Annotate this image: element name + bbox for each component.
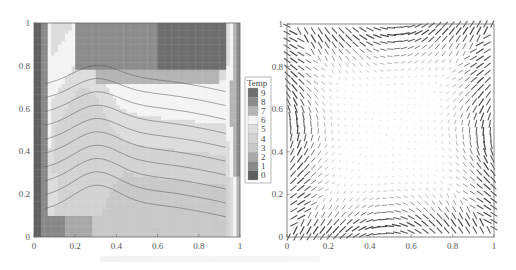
velocity-vector — [337, 104, 339, 106]
velocity-vector — [440, 188, 442, 191]
contour-cell — [185, 198, 189, 202]
velocity-vector — [359, 162, 360, 164]
contour-cell — [144, 230, 148, 234]
contour-cell — [123, 176, 127, 180]
velocity-vector — [359, 63, 362, 66]
contour-cell — [75, 98, 79, 102]
contour-cell — [199, 80, 203, 84]
contour-cell — [199, 219, 203, 223]
contour-cell — [127, 105, 131, 109]
contour-cell — [37, 69, 41, 73]
contour-cell — [41, 77, 45, 81]
contour-cell — [48, 34, 52, 38]
contour-cell — [195, 66, 199, 70]
velocity-vector — [332, 28, 337, 34]
contour-cell — [185, 184, 189, 188]
contour-cell — [134, 119, 138, 123]
velocity-vector — [299, 79, 305, 84]
contour-cell — [106, 98, 110, 102]
contour-cell — [192, 94, 196, 98]
contour-cell — [233, 216, 237, 220]
contour-cell — [127, 176, 131, 180]
velocity-vector — [406, 168, 407, 169]
contour-cell — [106, 55, 110, 59]
velocity-vector — [379, 219, 387, 220]
velocity-vector — [485, 77, 491, 83]
velocity-vector — [470, 141, 472, 147]
velocity-vector — [351, 184, 353, 186]
contour-cell — [34, 119, 38, 123]
contour-cell — [154, 191, 158, 195]
velocity-vector — [407, 230, 414, 233]
velocity-vector — [336, 83, 339, 84]
contour-cell — [99, 48, 103, 52]
contour-cell — [230, 216, 234, 220]
contour-cell — [223, 184, 227, 188]
contour-cell — [116, 219, 120, 223]
contour-cell — [92, 187, 96, 191]
contour-cell — [168, 23, 172, 27]
contour-cell — [82, 52, 86, 56]
contour-cell — [161, 69, 165, 73]
contour-cell — [147, 30, 151, 34]
contour-cell — [151, 180, 155, 184]
contour-cell — [182, 191, 186, 195]
contour-cell — [216, 126, 220, 130]
contour-cell — [182, 198, 186, 202]
contour-cell — [113, 87, 117, 91]
contour-cell — [185, 176, 189, 180]
contour-cell — [113, 151, 117, 155]
velocity-vector — [428, 67, 430, 70]
contour-cell — [120, 219, 124, 223]
velocity-vector — [297, 45, 304, 49]
contour-cell — [58, 116, 62, 120]
contour-cell — [199, 34, 203, 38]
contour-cell — [192, 91, 196, 95]
contour-cell — [130, 52, 134, 56]
velocity-vector — [466, 227, 470, 234]
velocity-vector — [428, 155, 430, 156]
contour-cell — [161, 166, 165, 170]
velocity-vector — [372, 162, 373, 163]
contour-cell — [144, 148, 148, 152]
contour-cell — [168, 59, 172, 63]
contour-cell — [120, 208, 124, 212]
contour-cell — [230, 77, 234, 81]
contour-cell — [154, 48, 158, 52]
velocity-vector — [401, 76, 404, 77]
contour-cell — [144, 194, 148, 198]
contour-cell — [213, 44, 217, 48]
velocity-vector — [290, 148, 293, 155]
velocity-vector — [366, 140, 367, 142]
velocity-vector — [436, 220, 442, 227]
contour-cell — [65, 30, 69, 34]
contour-cell — [55, 55, 59, 59]
contour-cell — [99, 223, 103, 227]
contour-cell — [144, 126, 148, 130]
contour-cell — [120, 205, 124, 209]
velocity-vector — [318, 56, 320, 61]
contour-cell — [55, 216, 59, 220]
contour-cell — [123, 30, 127, 34]
contour-cell — [223, 194, 227, 198]
velocity-vector — [403, 203, 408, 205]
contour-cell — [182, 112, 186, 116]
contour-cell — [75, 126, 79, 130]
contour-cell — [82, 126, 86, 130]
contour-cell — [164, 155, 168, 159]
contour-cell — [99, 27, 103, 31]
contour-cell — [51, 166, 55, 170]
contour-cell — [75, 52, 79, 56]
contour-cell — [110, 198, 114, 202]
contour-cell — [209, 23, 213, 27]
contour-cell — [44, 41, 48, 45]
contour-cell — [175, 141, 179, 145]
contour-cell — [96, 187, 100, 191]
contour-cell — [168, 219, 172, 223]
contour-cell — [209, 194, 213, 198]
contour-cell — [37, 66, 41, 70]
contour-cell — [175, 166, 179, 170]
velocity-vector — [297, 215, 305, 219]
contour-cell — [116, 27, 120, 31]
contour-cell — [209, 191, 213, 195]
